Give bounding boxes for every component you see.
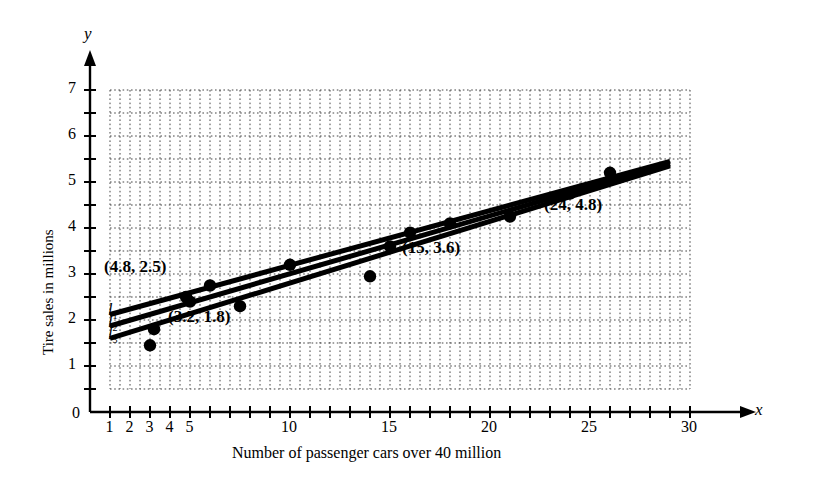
- y-tick-label: 7: [68, 79, 76, 97]
- data-point: [444, 217, 456, 229]
- x-tick-label: 2: [126, 418, 134, 436]
- scatter-plot-figure: y x Tire sales in millions Number of pas…: [0, 0, 819, 482]
- data-point: [504, 210, 516, 222]
- x-tick-label: 3: [146, 418, 154, 436]
- y-tick-label: 2: [68, 309, 76, 327]
- x-tick-label: 20: [481, 418, 497, 436]
- data-point: [148, 323, 160, 335]
- y-tick-label: 1: [68, 355, 76, 373]
- x-tick-label: 1: [106, 418, 114, 436]
- point-annotation: (4.8, 2.5): [104, 257, 166, 277]
- y-axis-name: y: [84, 24, 92, 44]
- data-point: [144, 339, 156, 351]
- x-tick-label: 4: [166, 418, 174, 436]
- x-tick-label: 10: [281, 418, 297, 436]
- data-point: [184, 295, 196, 307]
- y-tick-label: 6: [68, 125, 76, 143]
- x-tick-label: 25: [581, 418, 597, 436]
- y-tick-label: 4: [68, 217, 76, 235]
- data-point: [364, 270, 376, 282]
- data-point: [284, 259, 296, 271]
- regression-line-l1: [110, 161, 670, 314]
- point-annotation: (15, 3.6): [402, 238, 460, 258]
- data-point: [604, 167, 616, 179]
- line-label-l3: l3: [108, 325, 117, 345]
- data-point: [404, 226, 416, 238]
- y-tick-label: 5: [68, 171, 76, 189]
- x-axis-name: x: [755, 400, 763, 420]
- x-tick-label: 15: [381, 418, 397, 436]
- x-axis-title: Number of passenger cars over 40 million: [232, 444, 501, 462]
- point-annotation: (24, 4.8): [544, 195, 602, 215]
- data-point: [234, 300, 246, 312]
- y-tick-label: 3: [68, 263, 76, 281]
- y-axis-title: Tire sales in millions: [40, 229, 57, 355]
- x-tick-label: 5: [186, 418, 194, 436]
- x-tick-label: 30: [681, 418, 697, 436]
- origin-label: 0: [72, 404, 80, 422]
- point-annotation: (3.2, 1.8): [168, 307, 230, 327]
- data-point: [204, 279, 216, 291]
- data-point: [384, 240, 396, 252]
